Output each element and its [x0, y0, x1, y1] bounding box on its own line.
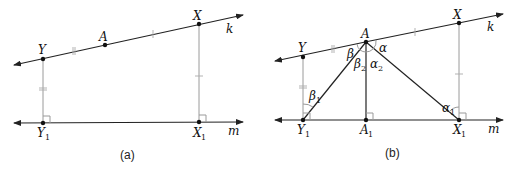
caption-b: (b) [385, 146, 400, 160]
point-Y1 [41, 121, 45, 125]
point-A1 [364, 118, 368, 122]
point-Y [301, 55, 305, 59]
label-X1-subscript: 1 [461, 130, 466, 139]
label-Y: Y [38, 43, 47, 57]
angle-label-beta: β [346, 47, 354, 61]
angle-label-alpha1-subscript: 1 [450, 108, 455, 117]
geometry-figure: Y A X k m Y 1 X 1 (a) [0, 0, 512, 173]
label-A: A [98, 30, 108, 44]
point-Y [41, 57, 45, 61]
line-k [370, 14, 503, 41]
label-X: X [192, 9, 202, 23]
line-m-left [14, 123, 120, 124]
equal-tick-marks [299, 28, 463, 88]
angle-label-beta2-subscript: 2 [361, 64, 366, 73]
angle-label-beta1: β [308, 89, 316, 103]
label-Y1-subscript: 1 [45, 133, 50, 142]
label-X: X [452, 8, 462, 22]
point-Y1 [301, 118, 305, 122]
label-X1-subscript: 1 [201, 133, 206, 142]
line-m [120, 122, 243, 123]
angle-label-beta1-subscript: 1 [316, 96, 321, 105]
label-k: k [226, 22, 233, 36]
equal-tick-marks [39, 30, 203, 90]
line-k-left [14, 44, 110, 65]
line-k [110, 15, 243, 44]
point-X1 [197, 120, 201, 124]
label-Y: Y [298, 41, 307, 55]
caption-a: (a) [120, 148, 135, 162]
label-k: k [487, 20, 494, 34]
label-m: m [488, 122, 499, 136]
angle-label-alpha: α [379, 41, 387, 55]
label-Y1-subscript: 1 [305, 130, 310, 139]
angle-label-beta2: β [353, 57, 361, 71]
label-A: A [360, 27, 370, 41]
label-A1-subscript: 1 [368, 130, 373, 139]
label-m: m [228, 124, 239, 138]
angle-label-alpha2-subscript: 2 [378, 64, 383, 73]
angle-label-alpha1: α [442, 101, 450, 115]
panel-a: Y A X k m Y 1 X 1 (a) [14, 9, 243, 162]
angle-label-alpha2: α [370, 57, 378, 71]
panel-b: Y A X k m Y 1 A 1 X 1 β α β 2 α 2 β 1 α … [275, 8, 503, 160]
point-X1 [457, 118, 461, 122]
